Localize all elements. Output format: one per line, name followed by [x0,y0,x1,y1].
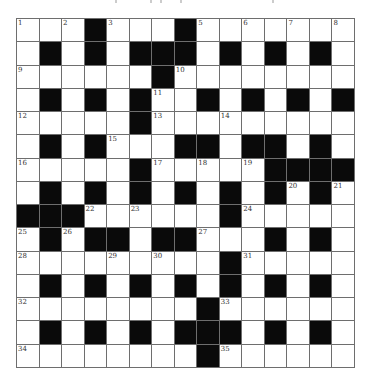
grid-cell[interactable]: 3 [107,19,129,41]
grid-cell[interactable] [310,112,332,134]
grid-cell[interactable] [287,252,309,274]
grid-cell[interactable] [85,66,107,88]
grid-cell[interactable] [332,205,354,227]
grid-cell[interactable]: 29 [107,252,129,274]
grid-cell[interactable] [62,135,84,157]
grid-cell[interactable] [197,112,219,134]
grid-cell[interactable] [85,112,107,134]
grid-cell[interactable] [242,275,264,297]
grid-cell[interactable] [17,321,39,343]
grid-cell[interactable]: 18 [197,159,219,181]
grid-cell[interactable] [130,252,152,274]
grid-cell[interactable] [197,275,219,297]
grid-cell[interactable] [107,205,129,227]
grid-cell[interactable] [130,345,152,367]
grid-cell[interactable] [332,135,354,157]
grid-cell[interactable] [287,275,309,297]
grid-cell[interactable] [107,42,129,64]
grid-cell[interactable] [265,298,287,320]
grid-cell[interactable] [85,252,107,274]
grid-cell[interactable] [62,159,84,181]
grid-cell[interactable]: 31 [242,252,264,274]
grid-cell[interactable] [310,298,332,320]
grid-cell[interactable]: 12 [17,112,39,134]
grid-cell[interactable] [130,135,152,157]
grid-cell[interactable] [40,112,62,134]
grid-cell[interactable] [17,89,39,111]
grid-cell[interactable]: 20 [287,182,309,204]
grid-cell[interactable] [332,228,354,250]
grid-cell[interactable] [107,345,129,367]
grid-cell[interactable] [107,89,129,111]
grid-cell[interactable] [62,275,84,297]
grid-cell[interactable]: 7 [287,19,309,41]
grid-cell[interactable]: 33 [220,298,242,320]
grid-cell[interactable] [62,89,84,111]
grid-cell[interactable]: 10 [175,66,197,88]
grid-cell[interactable] [242,112,264,134]
grid-cell[interactable] [107,321,129,343]
grid-cell[interactable]: 9 [17,66,39,88]
grid-cell[interactable]: 25 [17,228,39,250]
grid-cell[interactable] [220,89,242,111]
grid-cell[interactable]: 6 [242,19,264,41]
grid-cell[interactable] [287,135,309,157]
grid-cell[interactable] [265,205,287,227]
grid-cell[interactable]: 11 [152,89,174,111]
grid-cell[interactable]: 30 [152,252,174,274]
grid-cell[interactable] [40,345,62,367]
grid-cell[interactable] [130,19,152,41]
grid-cell[interactable] [287,298,309,320]
grid-cell[interactable] [220,19,242,41]
grid-cell[interactable] [152,205,174,227]
grid-cell[interactable] [107,275,129,297]
grid-cell[interactable] [62,345,84,367]
grid-cell[interactable] [175,345,197,367]
grid-cell[interactable] [17,275,39,297]
grid-cell[interactable] [85,159,107,181]
grid-cell[interactable] [265,66,287,88]
grid-cell[interactable]: 17 [152,159,174,181]
grid-cell[interactable]: 23 [130,205,152,227]
grid-cell[interactable] [62,321,84,343]
grid-cell[interactable] [287,345,309,367]
grid-cell[interactable] [107,298,129,320]
grid-cell[interactable] [310,89,332,111]
grid-cell[interactable] [107,182,129,204]
grid-cell[interactable] [332,252,354,274]
grid-cell[interactable] [85,345,107,367]
grid-cell[interactable] [265,252,287,274]
grid-cell[interactable]: 8 [332,19,354,41]
grid-cell[interactable] [62,42,84,64]
grid-cell[interactable] [265,345,287,367]
grid-cell[interactable] [107,66,129,88]
grid-cell[interactable] [197,66,219,88]
grid-cell[interactable] [152,19,174,41]
grid-cell[interactable] [175,112,197,134]
grid-cell[interactable] [220,66,242,88]
grid-cell[interactable] [152,135,174,157]
grid-cell[interactable] [242,66,264,88]
grid-cell[interactable] [242,298,264,320]
grid-cell[interactable] [242,321,264,343]
grid-cell[interactable] [220,228,242,250]
grid-cell[interactable]: 15 [107,135,129,157]
grid-cell[interactable] [287,228,309,250]
grid-cell[interactable] [107,159,129,181]
grid-cell[interactable] [197,182,219,204]
grid-cell[interactable] [85,298,107,320]
grid-cell[interactable] [265,89,287,111]
grid-cell[interactable]: 32 [17,298,39,320]
grid-cell[interactable] [287,42,309,64]
grid-cell[interactable] [332,321,354,343]
grid-cell[interactable] [62,182,84,204]
grid-cell[interactable] [152,345,174,367]
grid-cell[interactable] [130,298,152,320]
grid-cell[interactable] [332,66,354,88]
grid-cell[interactable] [332,275,354,297]
grid-cell[interactable]: 24 [242,205,264,227]
grid-cell[interactable] [242,228,264,250]
grid-cell[interactable] [152,321,174,343]
grid-cell[interactable]: 28 [17,252,39,274]
grid-cell[interactable]: 5 [197,19,219,41]
